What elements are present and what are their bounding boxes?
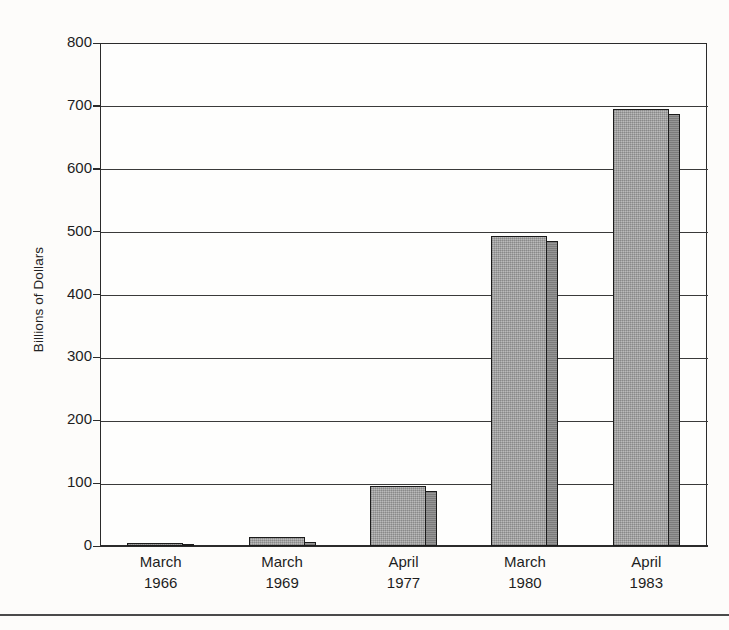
bar-march-1969: [249, 537, 316, 546]
bar-front-face: [370, 486, 426, 546]
gridline-700: [101, 106, 708, 107]
bar-front-face: [491, 236, 547, 546]
y-tick-label-300: 300: [22, 347, 92, 364]
bar-front-face: [127, 543, 183, 546]
bar-april-1977: [370, 486, 437, 546]
bar-chart-figure: Billions of Dollars 01002003004005006007…: [0, 0, 729, 630]
x-tick-month: March: [504, 553, 546, 570]
x-tick-label-2: April1977: [339, 552, 469, 593]
x-tick-month: March: [140, 553, 182, 570]
y-tick-label-700: 700: [22, 96, 92, 113]
x-tick-year: 1983: [581, 573, 711, 594]
y-tick-label-800: 800: [22, 33, 92, 50]
x-tick-label-4: April1983: [581, 552, 711, 593]
bar-april-1983: [613, 109, 680, 546]
y-tick-mark-200: [93, 420, 101, 421]
bar-march-1980: [491, 236, 558, 546]
x-tick-year: 1969: [217, 573, 347, 594]
x-tick-year: 1966: [96, 573, 226, 594]
y-tick-label-400: 400: [22, 285, 92, 302]
y-tick-mark-300: [93, 357, 101, 358]
x-tick-label-3: March1980: [460, 552, 590, 593]
x-tick-month: April: [631, 553, 661, 570]
y-tick-label-600: 600: [22, 159, 92, 176]
y-tick-mark-800: [93, 43, 101, 44]
bar-side-face: [669, 114, 680, 546]
bar-side-face: [426, 491, 437, 546]
y-tick-mark-700: [93, 105, 101, 106]
y-tick-label-500: 500: [22, 222, 92, 239]
y-tick-label-200: 200: [22, 410, 92, 427]
y-tick-mark-100: [93, 483, 101, 484]
bar-front-face: [249, 537, 305, 546]
y-tick-label-100: 100: [22, 473, 92, 490]
y-tick-mark-0: [93, 546, 101, 547]
y-tick-mark-600: [93, 168, 101, 169]
x-tick-month: March: [261, 553, 303, 570]
x-tick-year: 1980: [460, 573, 590, 594]
y-tick-mark-400: [93, 294, 101, 295]
bar-side-face: [547, 241, 558, 546]
x-tick-label-1: March1969: [217, 552, 347, 593]
footer-divider: [0, 614, 729, 616]
bar-side-face: [183, 544, 194, 546]
y-tick-label-0: 0: [22, 536, 92, 553]
bar-front-face: [613, 109, 669, 546]
bar-march-1966: [127, 543, 194, 546]
x-tick-label-0: March1966: [96, 552, 226, 593]
bar-side-face: [305, 542, 316, 546]
x-tick-year: 1977: [339, 573, 469, 594]
x-tick-month: April: [388, 553, 418, 570]
y-tick-mark-500: [93, 231, 101, 232]
